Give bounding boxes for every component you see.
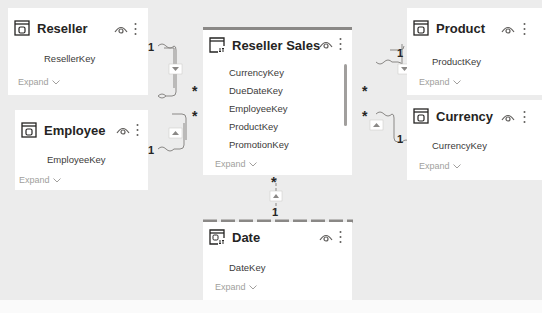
table-title: Reseller <box>37 21 88 36</box>
cardinality-one-reseller: 1 <box>148 41 154 53</box>
expand-button[interactable]: Expand <box>19 175 61 185</box>
expand-label: Expand <box>215 159 246 169</box>
more-options-icon[interactable] <box>523 110 526 124</box>
chevron-down-icon <box>249 162 257 167</box>
table-title: Product <box>436 21 485 36</box>
table-icon <box>413 20 429 36</box>
chevron-down-icon <box>53 178 61 183</box>
eye-icon[interactable] <box>319 39 333 49</box>
scrollbar[interactable] <box>344 64 347 126</box>
field-item[interactable]: EmployeeKey <box>47 154 106 165</box>
eye-icon[interactable] <box>114 24 128 34</box>
eye-icon[interactable] <box>501 24 515 34</box>
field-item[interactable]: ProductKey <box>432 56 481 67</box>
cardinality-one-date: 1 <box>272 206 278 218</box>
field-item[interactable]: ResellerKey <box>44 53 95 64</box>
table-header[interactable]: Currency <box>413 105 534 127</box>
field-item[interactable]: CurrencyKey <box>229 67 284 78</box>
expand-label: Expand <box>19 175 50 185</box>
more-options-icon[interactable] <box>523 22 526 36</box>
table-title: Date <box>232 230 260 245</box>
date-table-icon <box>209 229 225 245</box>
field-item[interactable]: PromotionKey <box>229 139 289 150</box>
expand-label: Expand <box>215 282 246 292</box>
cardinality-many-reseller: * <box>192 85 197 97</box>
expand-label: Expand <box>18 77 49 87</box>
cardinality-many-employee: * <box>192 110 197 122</box>
more-options-icon[interactable] <box>136 123 139 137</box>
expand-label: Expand <box>419 161 450 171</box>
chevron-down-icon <box>249 285 257 290</box>
table-title: Reseller Sales <box>232 38 320 53</box>
table-header[interactable]: Product <box>413 17 534 39</box>
cardinality-one-currency: 1 <box>397 133 403 145</box>
cardinality-one-employee: 1 <box>148 144 154 156</box>
expand-button[interactable]: Expand <box>419 77 461 87</box>
cardinality-many-date: * <box>271 176 276 188</box>
more-options-icon[interactable] <box>339 37 342 51</box>
table-card-reseller-sales[interactable]: Reseller Sales CurrencyKey DueDateKey Em… <box>203 30 352 175</box>
eye-icon[interactable] <box>319 232 333 242</box>
eye-icon[interactable] <box>501 112 515 122</box>
expand-button[interactable]: Expand <box>215 282 257 292</box>
fact-table-icon <box>209 37 225 53</box>
table-icon <box>21 122 37 138</box>
table-card-employee[interactable]: Employee EmployeeKey Expand <box>15 110 148 190</box>
table-card-currency[interactable]: Currency CurrencyKey Expand <box>407 100 542 180</box>
field-item[interactable]: ProductKey <box>229 121 278 132</box>
field-item[interactable]: CurrencyKey <box>432 140 487 151</box>
more-options-icon[interactable] <box>134 22 137 36</box>
eye-icon[interactable] <box>116 125 130 135</box>
expand-label: Expand <box>419 77 450 87</box>
chevron-down-icon <box>453 80 461 85</box>
table-card-date[interactable]: Date DateKey Expand <box>203 222 352 300</box>
chevron-down-icon <box>52 80 60 85</box>
cardinality-many-currency: * <box>362 110 367 122</box>
more-options-icon[interactable] <box>339 230 342 244</box>
expand-button[interactable]: Expand <box>419 161 461 171</box>
expand-button[interactable]: Expand <box>18 77 60 87</box>
field-item[interactable]: EmployeeKey <box>229 103 288 114</box>
chevron-down-icon <box>453 164 461 169</box>
field-item[interactable]: DateKey <box>229 262 265 273</box>
table-icon <box>14 20 30 36</box>
field-item[interactable]: DueDateKey <box>229 85 283 96</box>
table-card-reseller[interactable]: Reseller ResellerKey Expand <box>8 8 148 95</box>
expand-button[interactable]: Expand <box>215 159 257 169</box>
cardinality-one-product: 1 <box>397 47 403 59</box>
table-card-product[interactable]: Product ProductKey Expand <box>407 8 542 95</box>
table-title: Employee <box>44 123 105 138</box>
cardinality-many-product: * <box>362 85 367 97</box>
table-title: Currency <box>436 109 493 124</box>
table-icon <box>413 108 429 124</box>
